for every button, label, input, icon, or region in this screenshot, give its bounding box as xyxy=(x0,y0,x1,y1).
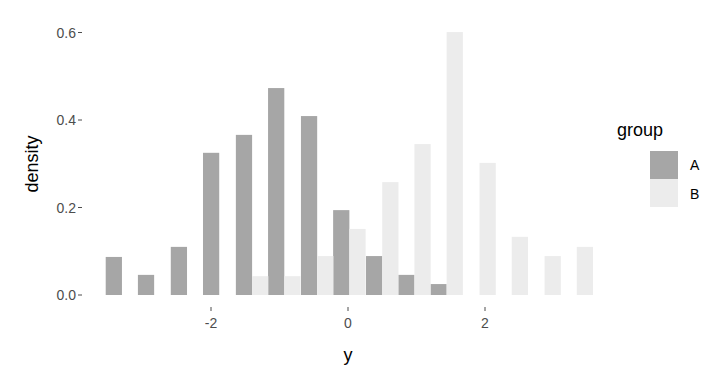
x-tick-label: 2 xyxy=(481,315,489,331)
bar-b xyxy=(480,163,496,295)
y-axis: 0.00.20.40.6 xyxy=(57,25,82,304)
legend-swatch-b xyxy=(650,179,678,207)
bar-b xyxy=(382,182,398,295)
y-tick-label: 0.4 xyxy=(57,112,77,128)
bar-a xyxy=(398,275,414,295)
bar-b xyxy=(512,237,528,295)
histogram-chart: 0.00.20.40.6 -202 y density group A B xyxy=(0,0,725,386)
bar-b xyxy=(317,256,333,295)
bar-b xyxy=(545,256,561,295)
y-tick-label: 0.0 xyxy=(57,287,77,303)
x-tick-label: 0 xyxy=(344,315,352,331)
legend-title: group xyxy=(617,120,663,140)
bar-b xyxy=(577,247,593,295)
bar-b xyxy=(414,144,430,295)
x-axis-title: y xyxy=(344,345,353,365)
bar-a xyxy=(203,153,219,295)
bar-b xyxy=(284,276,300,295)
y-axis-title: density xyxy=(22,135,42,192)
bar-a xyxy=(138,275,154,295)
bar-a xyxy=(268,88,284,295)
bar-a xyxy=(333,210,349,295)
x-tick-label: -2 xyxy=(205,315,218,331)
y-tick-label: 0.6 xyxy=(57,25,77,41)
bar-a xyxy=(106,257,122,295)
bar-b xyxy=(252,276,268,295)
bar-a xyxy=(430,284,446,295)
y-tick-label: 0.2 xyxy=(57,200,77,216)
legend-label-a: A xyxy=(690,157,700,173)
legend-label-b: B xyxy=(690,186,699,202)
bar-b xyxy=(349,229,365,295)
bar-a xyxy=(301,116,317,295)
bar-b xyxy=(447,32,463,295)
bar-a xyxy=(366,256,382,295)
x-axis: -202 xyxy=(205,307,489,331)
bar-a xyxy=(236,135,252,295)
bar-a xyxy=(171,247,187,295)
bars-layer xyxy=(106,32,593,295)
legend-swatch-a xyxy=(650,151,678,179)
legend: group A B xyxy=(617,120,700,207)
